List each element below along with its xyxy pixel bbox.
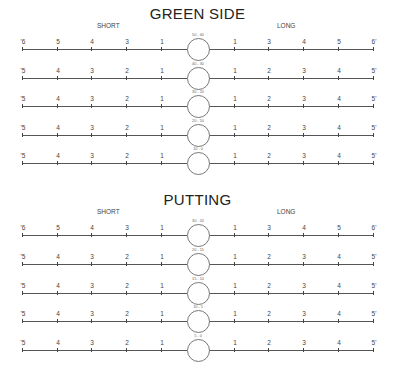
long-tick-mark <box>303 262 304 266</box>
long-tick-mark <box>234 47 235 51</box>
short-tick-label: 4 <box>56 67 60 74</box>
long-tick-mark <box>338 133 339 137</box>
long-tick-mark <box>234 76 235 80</box>
short-tick-mark <box>57 133 58 137</box>
target-hole-circle <box>187 38 210 61</box>
long-tick-label: 2 <box>267 310 271 317</box>
target-hole-circle <box>187 310 210 333</box>
long-tick-label: 1 <box>233 339 237 346</box>
long-tick-mark <box>338 262 339 266</box>
short-tick-mark <box>57 76 58 80</box>
long-tick-mark <box>268 291 269 295</box>
long-tick-label: 3 <box>302 67 306 74</box>
short-tick-label: 2 <box>125 339 129 346</box>
short-label: SHORT <box>97 208 120 215</box>
short-tick-mark <box>22 76 23 80</box>
long-tick-label: 4 <box>337 253 341 260</box>
long-tick-mark <box>373 291 374 295</box>
distance-range-label: 20 - 10 <box>192 119 204 123</box>
short-scale-line <box>22 321 187 322</box>
long-tick-label: 4 <box>337 310 341 317</box>
long-tick-label: 2 <box>267 339 271 346</box>
long-tick-label: 5' <box>372 253 377 260</box>
short-tick-label: 4 <box>56 124 60 131</box>
short-tick-mark <box>22 133 23 137</box>
distance-range-label: 40 - 30 <box>192 62 204 66</box>
short-tick-mark <box>126 291 127 295</box>
short-tick-label: 1 <box>160 282 164 289</box>
short-scale-line <box>22 163 187 164</box>
long-tick-label: 1 <box>233 253 237 260</box>
short-tick-label: '5 <box>21 282 26 289</box>
long-tick-mark <box>234 133 235 137</box>
short-tick-mark <box>126 133 127 137</box>
short-scale-line <box>22 135 187 136</box>
long-tick-mark <box>234 262 235 266</box>
short-tick-label: 5 <box>56 224 60 231</box>
short-scale-line <box>22 293 187 294</box>
short-tick-mark <box>22 319 23 323</box>
long-tick-mark <box>373 348 374 352</box>
short-tick-label: 1 <box>160 152 164 159</box>
long-tick-label: 4 <box>337 95 341 102</box>
short-tick-label: 3 <box>90 310 94 317</box>
short-tick-mark <box>161 291 162 295</box>
short-tick-mark <box>161 47 162 51</box>
long-tick-mark <box>303 161 304 165</box>
long-tick-mark <box>268 76 269 80</box>
target-hole-circle <box>187 152 210 175</box>
long-tick-mark <box>373 104 374 108</box>
short-scale-line <box>22 350 187 351</box>
short-tick-mark <box>126 262 127 266</box>
long-tick-label: 3 <box>267 38 271 45</box>
short-tick-mark <box>91 291 92 295</box>
short-tick-mark <box>126 76 127 80</box>
long-tick-label: 5' <box>372 124 377 131</box>
short-tick-mark <box>57 161 58 165</box>
long-tick-mark <box>268 47 269 51</box>
long-tick-mark <box>303 47 304 51</box>
long-tick-mark <box>338 348 339 352</box>
long-tick-label: 5' <box>372 310 377 317</box>
distance-range-label: 15 - 10 <box>192 277 204 281</box>
short-tick-label: 2 <box>125 253 129 260</box>
short-tick-label: 1 <box>160 124 164 131</box>
short-tick-mark <box>91 262 92 266</box>
long-tick-mark <box>234 104 235 108</box>
short-tick-label: 2 <box>125 310 129 317</box>
short-tick-mark <box>57 262 58 266</box>
long-tick-label: 1 <box>233 95 237 102</box>
short-tick-label: 5 <box>56 38 60 45</box>
short-tick-mark <box>57 319 58 323</box>
short-tick-mark <box>91 348 92 352</box>
long-tick-label: 1 <box>233 224 237 231</box>
short-tick-label: 2 <box>125 124 129 131</box>
short-tick-label: 4 <box>90 224 94 231</box>
long-tick-mark <box>268 233 269 237</box>
short-tick-mark <box>91 47 92 51</box>
short-tick-label: 1 <box>160 253 164 260</box>
short-tick-label: 3 <box>90 282 94 289</box>
short-tick-label: 1 <box>160 224 164 231</box>
long-tick-mark <box>303 291 304 295</box>
long-tick-mark <box>303 233 304 237</box>
short-tick-label: '5 <box>21 253 26 260</box>
short-tick-mark <box>161 76 162 80</box>
short-tick-label: 4 <box>56 95 60 102</box>
long-tick-mark <box>338 47 339 51</box>
long-tick-label: 3 <box>302 310 306 317</box>
long-tick-mark <box>373 47 374 51</box>
long-tick-mark <box>268 348 269 352</box>
short-tick-label: 1 <box>160 67 164 74</box>
short-tick-label: '6 <box>21 224 26 231</box>
section-title: PUTTING <box>0 191 395 208</box>
short-tick-label: 3 <box>125 38 129 45</box>
distance-range-label: 5 - 0 <box>194 334 202 338</box>
short-tick-mark <box>57 47 58 51</box>
short-tick-label: '5 <box>21 67 26 74</box>
long-tick-mark <box>234 348 235 352</box>
short-tick-label: 4 <box>56 310 60 317</box>
long-tick-label: 2 <box>267 152 271 159</box>
short-tick-mark <box>57 104 58 108</box>
long-tick-mark <box>234 291 235 295</box>
